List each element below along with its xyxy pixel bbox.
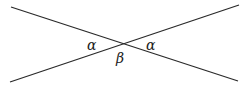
- angle-label-alpha-left: α: [87, 38, 96, 52]
- angle-label-beta-bottom: β: [116, 51, 124, 65]
- crossing-lines-canvas: [0, 0, 245, 88]
- geometry-figure: α α β: [0, 0, 245, 88]
- angle-label-alpha-right: α: [146, 38, 155, 52]
